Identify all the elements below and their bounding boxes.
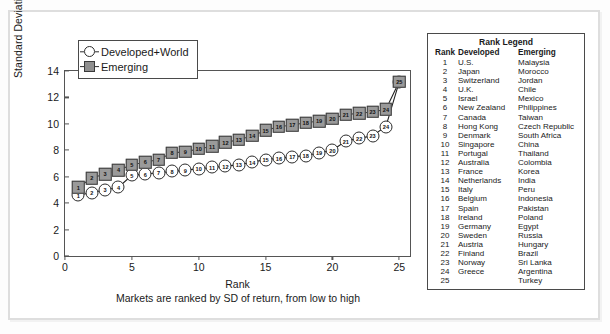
x-tick-mark: [332, 256, 333, 260]
data-point-developed-6: 6: [139, 168, 152, 181]
y-tick-mark: [65, 97, 69, 98]
table-row: 11PortugalThailand: [432, 149, 580, 158]
cell-emerging: Turkey: [518, 276, 580, 285]
table-row: 7CanadaTaiwan: [432, 113, 580, 122]
chart-area: Standard Deviation (%/month) 02468101214…: [18, 18, 418, 308]
figure-root: Standard Deviation (%/month) 02468101214…: [0, 0, 610, 334]
col-header-rank: Rank: [432, 48, 458, 58]
cell-developed: Canada: [458, 113, 518, 122]
data-point-emerging-10: 10: [192, 143, 205, 156]
data-point-emerging-3: 3: [99, 168, 112, 181]
y-tick-label: 14: [47, 65, 65, 77]
y-tick-label: 8: [53, 144, 65, 156]
cell-developed: U.K.: [458, 85, 518, 94]
x-axis-sublabel: Markets are ranked by SD of return, from…: [28, 292, 448, 304]
legend-label-emerging: Emerging: [101, 61, 148, 73]
y-tick-label: 4: [53, 197, 65, 209]
cell-developed: Italy: [458, 185, 518, 194]
data-point-developed-7: 7: [152, 166, 165, 179]
cell-developed: Spain: [458, 204, 518, 213]
x-axis-label: Rank: [64, 278, 411, 290]
cell-developed: Belgium: [458, 194, 518, 203]
cell-developed: Finland: [458, 249, 518, 258]
cell-developed: Greece: [458, 267, 518, 276]
cell-developed: Australia: [458, 158, 518, 167]
open-circle-marker-icon: [84, 46, 95, 57]
rank-legend-grid: Rank Developed Emerging 1U.S.Malaysia2Ja…: [432, 48, 580, 285]
cell-emerging: Taiwan: [518, 113, 580, 122]
x-tick-mark: [64, 256, 65, 260]
cell-developed: Denmark: [458, 131, 518, 140]
cell-rank: 23: [432, 258, 458, 267]
data-point-developed-20: 20: [326, 144, 339, 157]
data-point-developed-19: 19: [313, 146, 326, 159]
cell-emerging: Pakistan: [518, 204, 580, 213]
data-point-emerging-13: 13: [233, 133, 246, 146]
legend-item-emerging: Emerging: [84, 59, 189, 74]
table-row: 22FinlandBrazil: [432, 249, 580, 258]
rank-legend-title: Rank Legend: [432, 36, 580, 48]
rank-legend-table: Rank Legend Rank Developed Emerging 1U.S…: [427, 33, 585, 290]
data-point-emerging-2: 2: [85, 172, 98, 185]
y-tick-mark: [65, 123, 69, 124]
data-point-emerging-20: 20: [326, 112, 339, 125]
cell-developed: Ireland: [458, 213, 518, 222]
cell-rank: 19: [432, 222, 458, 231]
legend-item-developed: Developed+World: [84, 44, 189, 59]
table-row: 2JapanMorocco: [432, 67, 580, 76]
x-tick-label: 25: [393, 261, 405, 273]
cell-emerging: South Africa: [518, 131, 580, 140]
cell-rank: 11: [432, 149, 458, 158]
cell-rank: 6: [432, 103, 458, 112]
data-point-developed-22: 22: [353, 132, 366, 145]
table-row: 20SwedenRussia: [432, 231, 580, 240]
y-tick-mark: [65, 229, 69, 230]
data-point-developed-11: 11: [206, 161, 219, 174]
cell-developed: Israel: [458, 94, 518, 103]
data-point-emerging-25: 25: [393, 75, 406, 88]
data-point-developed-2: 2: [85, 186, 98, 199]
cell-developed: Austria: [458, 240, 518, 249]
data-point-emerging-7: 7: [152, 153, 165, 166]
y-tick-label: 10: [47, 118, 65, 130]
y-tick-mark: [65, 150, 69, 151]
cell-rank: 5: [432, 94, 458, 103]
cell-emerging: Sri Lanka: [518, 258, 580, 267]
table-row: 8Hong KongCzech Republic: [432, 122, 580, 131]
data-point-developed-24: 24: [379, 120, 392, 133]
cell-emerging: Jordan: [518, 76, 580, 85]
cell-rank: 1: [432, 58, 458, 67]
data-point-emerging-18: 18: [299, 116, 312, 129]
data-point-emerging-24: 24: [380, 103, 393, 116]
cell-developed: Netherlands: [458, 176, 518, 185]
cell-rank: 3: [432, 76, 458, 85]
data-point-developed-10: 10: [192, 162, 205, 175]
cell-emerging: Thailand: [518, 149, 580, 158]
cell-rank: 25: [432, 276, 458, 285]
cell-emerging: Morocco: [518, 67, 580, 76]
data-point-developed-23: 23: [366, 129, 379, 142]
table-row: 19GermanyEgypt: [432, 222, 580, 231]
table-row: 4U.K.Chile: [432, 85, 580, 94]
cell-emerging: Korea: [518, 167, 580, 176]
cell-rank: 15: [432, 185, 458, 194]
data-point-emerging-15: 15: [259, 124, 272, 137]
cell-rank: 7: [432, 113, 458, 122]
cell-rank: 10: [432, 140, 458, 149]
cell-emerging: Russia: [518, 231, 580, 240]
table-row: 12AustraliaColombia: [432, 158, 580, 167]
data-point-developed-21: 21: [339, 135, 352, 148]
cell-developed: Germany: [458, 222, 518, 231]
table-row: 18IrelandPoland: [432, 213, 580, 222]
cell-rank: 18: [432, 213, 458, 222]
table-row: 6New ZealandPhilippines: [432, 103, 580, 112]
table-row: 5IsraelMexico: [432, 94, 580, 103]
cell-emerging: India: [518, 176, 580, 185]
data-point-developed-17: 17: [286, 150, 299, 163]
cell-developed: U.S.: [458, 58, 518, 67]
data-point-emerging-22: 22: [353, 107, 366, 120]
y-tick-mark: [65, 255, 69, 256]
cell-rank: 22: [432, 249, 458, 258]
table-row: 13FranceKorea: [432, 167, 580, 176]
data-point-emerging-19: 19: [313, 115, 326, 128]
